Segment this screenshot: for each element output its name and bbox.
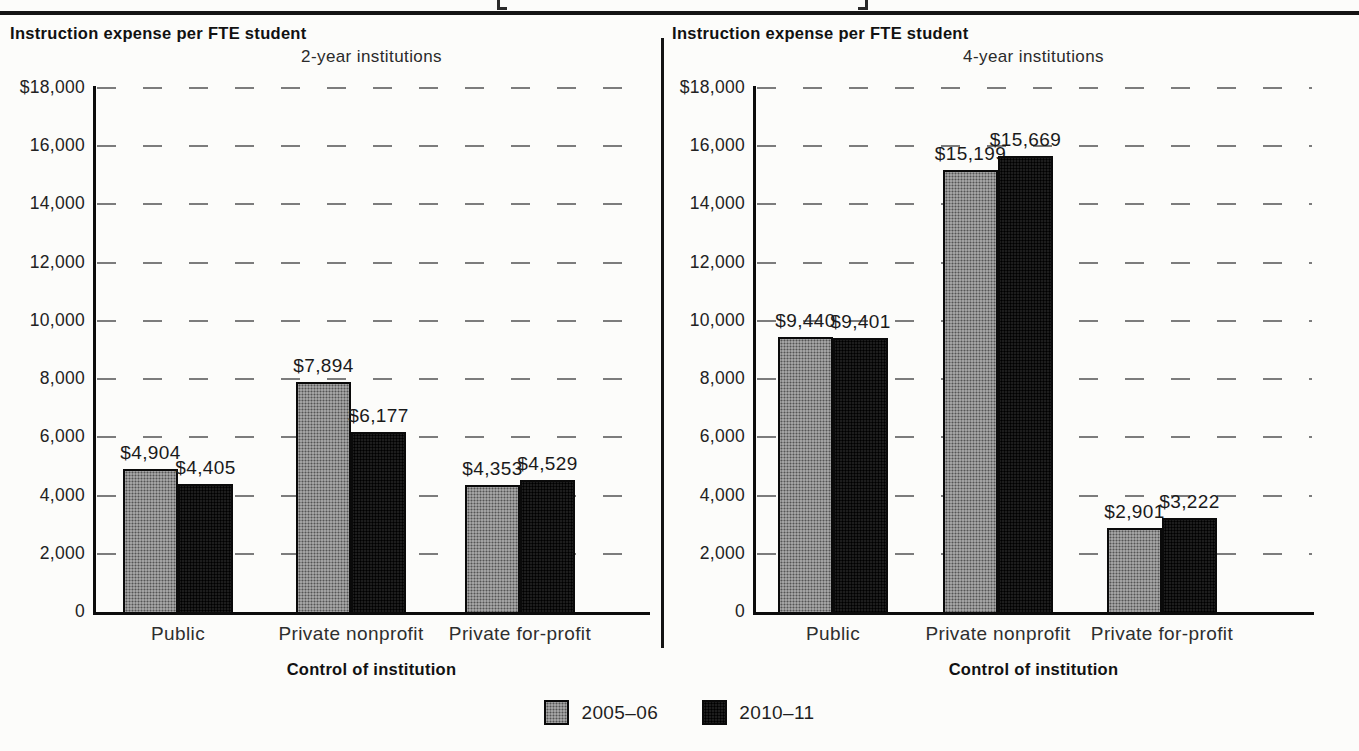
chart-0-ytick: $18,000 bbox=[0, 77, 85, 98]
chart-0-title: Instruction expense per FTE student bbox=[10, 24, 307, 43]
chart-0-gridline-12000 bbox=[97, 262, 648, 264]
bar-2005-06-private-nonprofit bbox=[943, 170, 998, 612]
chart-0-gridline-10000 bbox=[97, 320, 648, 322]
legend-swatch-2010-11 bbox=[702, 700, 727, 725]
legend-item-2010-11: 2010–11 bbox=[702, 700, 814, 725]
bar-value-2010-11-public: $4,405 bbox=[175, 457, 236, 479]
chart-0-x-axis bbox=[93, 612, 650, 615]
bar-2005-06-private-for-profit bbox=[1107, 528, 1162, 612]
chart-1-ytick: 10,000 bbox=[655, 310, 745, 331]
chart-0-ytick: 10,000 bbox=[0, 310, 85, 331]
chart-0-ytick: 16,000 bbox=[0, 135, 85, 156]
legend-item-2005-06: 2005–06 bbox=[544, 700, 658, 725]
chart-0-ytick: 8,000 bbox=[0, 368, 85, 389]
chart-0-ytick: 2,000 bbox=[0, 543, 85, 564]
chart-1-ytick: 12,000 bbox=[655, 252, 745, 273]
chart-1-gridline-18000 bbox=[757, 87, 1312, 89]
bar-2010-11-private-for-profit bbox=[1162, 518, 1217, 612]
chart-1-ytick: $18,000 bbox=[655, 77, 745, 98]
chart-1-ytick: 14,000 bbox=[655, 193, 745, 214]
chart-0-ytick: 12,000 bbox=[0, 252, 85, 273]
bar-2010-11-private-for-profit bbox=[520, 480, 575, 612]
chart-0-gridline-14000 bbox=[97, 203, 648, 205]
bar-2010-11-public bbox=[833, 338, 888, 612]
chart-1-ytick: 4,000 bbox=[655, 485, 745, 506]
chart-1-ytick: 16,000 bbox=[655, 135, 745, 156]
chart-1-category-private-for-profit: Private for-profit bbox=[1032, 623, 1292, 645]
chart-0-gridline-16000 bbox=[97, 145, 648, 147]
bar-value-2010-11-private-nonprofit: $6,177 bbox=[348, 405, 409, 427]
chart-1-y-axis bbox=[753, 86, 756, 615]
chart-0-category-private-for-profit: Private for-profit bbox=[390, 623, 650, 645]
chart-0-ytick: 0 bbox=[0, 601, 85, 622]
bar-value-2010-11-private-nonprofit: $15,669 bbox=[990, 129, 1061, 151]
chart-1-title: Instruction expense per FTE student bbox=[672, 24, 969, 43]
bar-2010-11-private-nonprofit bbox=[998, 156, 1053, 612]
bar-2005-06-public bbox=[123, 469, 178, 612]
bar-2005-06-private-for-profit bbox=[465, 485, 520, 612]
bar-value-2005-06-private-for-profit: $4,353 bbox=[462, 458, 523, 480]
top-divider-rule bbox=[0, 11, 1359, 15]
legend: 2005–06 2010–11 bbox=[0, 700, 1359, 725]
chart-0-gridline-18000 bbox=[97, 87, 648, 89]
bar-2005-06-public bbox=[778, 337, 833, 612]
bar-2010-11-private-nonprofit bbox=[351, 432, 406, 612]
bar-value-2005-06-public: $9,440 bbox=[775, 310, 836, 332]
scanned-chart-page: Instruction expense per FTE student2-yea… bbox=[0, 0, 1359, 751]
chart-0-ytick: 14,000 bbox=[0, 193, 85, 214]
legend-label-2010-11: 2010–11 bbox=[739, 702, 814, 724]
chart-1-ytick: 0 bbox=[655, 601, 745, 622]
legend-label-2005-06: 2005–06 bbox=[581, 702, 658, 724]
bar-value-2010-11-private-for-profit: $4,529 bbox=[517, 453, 578, 475]
cropped-right-bracket bbox=[858, 0, 868, 10]
chart-0-subtitle: 2-year institutions bbox=[301, 47, 442, 67]
chart-0-y-axis bbox=[93, 86, 96, 615]
chart-1-subtitle: 4-year institutions bbox=[963, 47, 1104, 67]
chart-0-x-axis-title: Control of institution bbox=[287, 660, 457, 679]
cropped-left-bracket bbox=[497, 0, 507, 10]
chart-0-ytick: 6,000 bbox=[0, 426, 85, 447]
bar-value-2010-11-private-for-profit: $3,222 bbox=[1159, 491, 1220, 513]
bar-2010-11-public bbox=[178, 484, 233, 612]
bar-value-2005-06-public: $4,904 bbox=[120, 442, 181, 464]
chart-0-ytick: 4,000 bbox=[0, 485, 85, 506]
chart-1-x-axis-title: Control of institution bbox=[949, 660, 1119, 679]
bar-value-2005-06-private-for-profit: $2,901 bbox=[1104, 501, 1165, 523]
bar-2005-06-private-nonprofit bbox=[296, 382, 351, 612]
chart-1-ytick: 6,000 bbox=[655, 426, 745, 447]
legend-swatch-2005-06 bbox=[544, 700, 569, 725]
bar-value-2005-06-private-nonprofit: $7,894 bbox=[293, 355, 354, 377]
chart-0-gridline-8000 bbox=[97, 378, 648, 380]
chart-1-ytick: 2,000 bbox=[655, 543, 745, 564]
chart-1-x-axis bbox=[753, 612, 1314, 615]
chart-1-ytick: 8,000 bbox=[655, 368, 745, 389]
bar-value-2010-11-public: $9,401 bbox=[830, 311, 891, 333]
